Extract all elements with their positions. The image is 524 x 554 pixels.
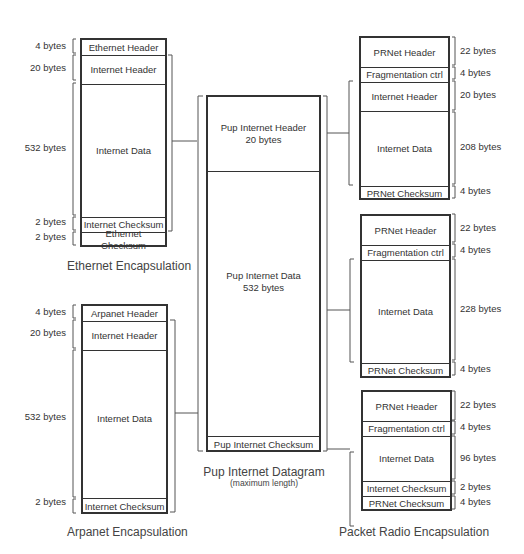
ethernet-caption: Ethernet Encapsulation <box>67 259 182 273</box>
field-label: Pup Internet Header <box>221 122 307 134</box>
prnet-checksum-field: PRNet Checksum <box>363 496 450 511</box>
field-label: PRNet Header <box>376 401 438 413</box>
internet-data-field: Internet Data <box>83 350 166 498</box>
field-label: PRNet Checksum <box>367 188 443 200</box>
size-label: 4 bytes <box>460 185 491 196</box>
field-label: PRNet Header <box>374 47 436 59</box>
prnet-checksum-field: PRNet Checksum <box>361 186 448 200</box>
field-label: Fragmentation ctrl <box>368 423 445 435</box>
pr-packet-1: PRNet Header Fragmentation ctrl Internet… <box>359 36 450 200</box>
internet-data-field: Internet Data <box>363 436 450 481</box>
field-label: PRNet Checksum <box>369 498 445 510</box>
arpanet-caption: Arpanet Encapsulation <box>67 525 182 539</box>
field-size: 532 bytes <box>243 282 284 294</box>
ethernet-frame: Ethernet Header Internet Header Internet… <box>80 38 167 247</box>
internet-header-field: Internet Header <box>83 321 166 350</box>
size-label: 20 bytes <box>460 89 496 100</box>
field-label: Internet Data <box>97 413 152 425</box>
pup-datagram: Pup Internet Header 20 bytes Pup Interne… <box>206 95 321 452</box>
arpanet-header-field: Arpanet Header <box>83 306 166 321</box>
size-label: 4 bytes <box>35 40 66 51</box>
internet-data-field: Internet Data <box>361 111 448 186</box>
prnet-checksum-field: PRNet Checksum <box>362 363 449 378</box>
internet-header-field: Internet Header <box>82 55 165 84</box>
field-label: PRNet Checksum <box>368 365 444 377</box>
field-size: 20 bytes <box>246 134 282 146</box>
pup-subcaption: (maximum length) <box>203 478 325 488</box>
size-label: 22 bytes <box>460 399 496 410</box>
field-label: Internet Data <box>379 453 434 465</box>
fragmentation-ctrl-field: Fragmentation ctrl <box>362 245 449 260</box>
size-label: 2 bytes <box>35 496 66 507</box>
prnet-header-field: PRNet Header <box>363 392 450 421</box>
pup-caption: Pup Internet Datagram <box>203 465 325 479</box>
field-label: Ethernet Header <box>89 42 159 54</box>
internet-checksum-field: Internet Checksum <box>83 498 166 514</box>
field-label: PRNet Header <box>375 225 437 237</box>
fragmentation-ctrl-field: Fragmentation ctrl <box>361 67 448 82</box>
field-label: Ethernet Checksum <box>82 228 165 252</box>
field-label: Arpanet Header <box>91 308 158 320</box>
size-label: 532 bytes <box>25 142 66 153</box>
size-label: 96 bytes <box>460 452 496 463</box>
field-label: Fragmentation ctrl <box>366 69 443 81</box>
field-label: Internet Data <box>96 145 151 157</box>
size-label: 20 bytes <box>30 327 66 338</box>
pup-data-field: Pup Internet Data 532 bytes <box>208 171 319 436</box>
size-label: 22 bytes <box>460 222 496 233</box>
size-label: 4 bytes <box>460 363 491 374</box>
packet-radio-caption: Packet Radio Encapsulation <box>339 525 489 539</box>
field-label: Internet Data <box>377 143 432 155</box>
size-label: 22 bytes <box>460 45 496 56</box>
pr-packet-2: PRNet Header Fragmentation ctrl Internet… <box>360 214 451 378</box>
field-label: Fragmentation ctrl <box>367 247 444 259</box>
internet-data-field: Internet Data <box>82 84 165 217</box>
field-label: Internet Header <box>90 64 156 76</box>
pr-packet-3: PRNet Header Fragmentation ctrl Internet… <box>361 390 452 511</box>
size-label: 4 bytes <box>460 421 491 432</box>
prnet-header-field: PRNet Header <box>361 38 448 67</box>
size-label: 20 bytes <box>30 62 66 73</box>
field-label: Internet Header <box>91 330 157 342</box>
prnet-header-field: PRNet Header <box>362 216 449 245</box>
pup-header-field: Pup Internet Header 20 bytes <box>208 97 319 171</box>
size-label: 4 bytes <box>460 67 491 78</box>
internet-checksum-field: Internet Checksum <box>363 481 450 496</box>
ethernet-checksum-field: Ethernet Checksum <box>82 232 165 247</box>
field-label: Internet Data <box>378 306 433 318</box>
size-label: 2 bytes <box>35 231 66 242</box>
size-label: 4 bytes <box>460 244 491 255</box>
arpanet-frame: Arpanet Header Internet Header Internet … <box>81 304 168 514</box>
size-label: 228 bytes <box>460 303 501 314</box>
field-label: Internet Checksum <box>367 483 447 495</box>
size-label: 2 bytes <box>35 216 66 227</box>
size-label: 208 bytes <box>460 141 501 152</box>
pup-checksum-field: Pup Internet Checksum <box>208 436 319 452</box>
size-label: 532 bytes <box>25 411 66 422</box>
size-label: 4 bytes <box>460 496 491 507</box>
internet-header-field: Internet Header <box>361 82 448 111</box>
internet-data-field: Internet Data <box>362 260 449 363</box>
field-label: Pup Internet Data <box>226 270 300 282</box>
field-label: Pup Internet Checksum <box>214 439 313 451</box>
ethernet-header-field: Ethernet Header <box>82 40 165 55</box>
field-label: Internet Checksum <box>85 501 165 513</box>
field-label: Internet Header <box>371 91 437 103</box>
fragmentation-ctrl-field: Fragmentation ctrl <box>363 421 450 436</box>
size-label: 2 bytes <box>460 481 491 492</box>
size-label: 4 bytes <box>35 306 66 317</box>
